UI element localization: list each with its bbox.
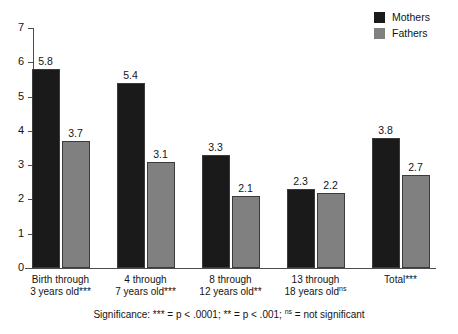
bar-value-label: 3.3 bbox=[208, 141, 223, 153]
bar-mothers-0: 5.8 bbox=[32, 69, 60, 268]
bar-value-label: 3.7 bbox=[68, 127, 83, 139]
y-tick-6: 6 bbox=[28, 62, 33, 63]
bar-mothers-1: 5.4 bbox=[117, 83, 145, 268]
bar-value-label: 3.1 bbox=[153, 148, 168, 160]
bar-fathers-3: 2.2 bbox=[317, 193, 345, 268]
bar-mothers-4: 3.8 bbox=[372, 138, 400, 268]
bar-fathers-2: 2.1 bbox=[232, 196, 260, 268]
bar-value-label: 3.8 bbox=[378, 124, 393, 136]
plot-area: 76543210 5.83.75.43.13.32.12.32.23.82.7 … bbox=[33, 28, 448, 268]
category-label-3: 13 through18 years oldns bbox=[285, 274, 347, 298]
bar-mothers-3: 2.3 bbox=[287, 189, 315, 268]
bar-fathers-0: 3.7 bbox=[62, 141, 90, 268]
y-tick-7: 7 bbox=[28, 28, 33, 29]
bar-value-label: 2.2 bbox=[323, 179, 338, 191]
significance-footnote: Significance: *** = p < .0001; ** = p < … bbox=[0, 308, 458, 321]
y-tick-label-3: 3 bbox=[18, 158, 24, 171]
x-axis-line bbox=[25, 268, 436, 269]
y-tick-label-7: 7 bbox=[18, 21, 24, 34]
y-tick-label-0: 0 bbox=[18, 261, 24, 274]
legend-swatch-mothers bbox=[374, 12, 385, 23]
legend-item-mothers: Mothers bbox=[374, 12, 430, 23]
y-tick-label-5: 5 bbox=[18, 90, 24, 103]
bar-fathers-1: 3.1 bbox=[147, 162, 175, 268]
legend-label-mothers: Mothers bbox=[392, 12, 430, 23]
category-label-1: 4 through7 years old*** bbox=[115, 274, 176, 298]
y-tick-label-6: 6 bbox=[18, 55, 24, 68]
category-label-4: Total*** bbox=[384, 274, 417, 286]
category-label-0: Birth through3 years old*** bbox=[30, 274, 91, 298]
bar-value-label: 2.1 bbox=[238, 182, 253, 194]
bar-mothers-2: 3.3 bbox=[202, 155, 230, 268]
y-tick-label-2: 2 bbox=[18, 192, 24, 205]
bar-chart: Mothers Fathers 76543210 5.83.75.43.13.3… bbox=[0, 0, 458, 334]
y-tick-0: 0 bbox=[28, 268, 33, 269]
footnote-superscript: ns bbox=[285, 308, 292, 315]
bar-value-label: 2.3 bbox=[293, 175, 308, 187]
y-tick-label-4: 4 bbox=[18, 124, 24, 137]
y-tick-label-1: 1 bbox=[18, 227, 24, 240]
bar-fathers-4: 2.7 bbox=[402, 175, 430, 268]
category-label-2: 8 through12 years old** bbox=[199, 274, 261, 298]
footnote-suffix: = not significant bbox=[292, 309, 365, 320]
bar-value-label: 5.4 bbox=[123, 69, 138, 81]
bar-value-label: 2.7 bbox=[408, 161, 423, 173]
bar-value-label: 5.8 bbox=[38, 55, 53, 67]
footnote-prefix: Significance: *** = p < .0001; ** = p < … bbox=[93, 309, 284, 320]
